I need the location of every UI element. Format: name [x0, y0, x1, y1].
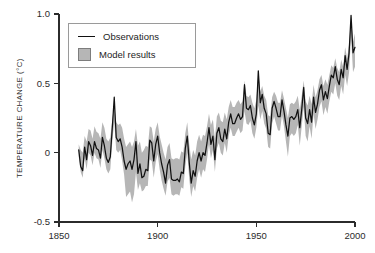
- y-tick-label: 1.0: [37, 8, 50, 19]
- y-tick-label: -0.5: [34, 216, 50, 227]
- x-tick-label: 1850: [48, 230, 69, 241]
- x-tick-label: 2000: [344, 230, 365, 241]
- legend-label-observations: Observations: [103, 31, 159, 42]
- x-axis-tick-labels: 1850190019502000: [48, 230, 365, 241]
- temperature-change-chart: -0.500.51.0 1850190019502000 TEMPERATURE…: [0, 0, 375, 253]
- legend-item-observations: Observations: [78, 31, 159, 42]
- y-axis-label-text: TEMPERATURE CHANGE (°C): [15, 58, 24, 178]
- y-tick-label: 0.5: [37, 78, 50, 89]
- y-axis-label: TEMPERATURE CHANGE (°C): [15, 58, 24, 178]
- y-axis-tick-labels: -0.500.51.0: [34, 8, 50, 227]
- legend-item-model-results: Model results: [78, 48, 156, 61]
- legend-label-model-results: Model results: [99, 49, 156, 60]
- legend-swatch-icon: [78, 48, 91, 61]
- chart-legend: Observations Model results: [68, 23, 196, 68]
- x-tick-label: 1950: [246, 230, 267, 241]
- y-tick-label: 0: [45, 147, 50, 158]
- legend-line-icon: [78, 36, 95, 37]
- x-tick-label: 1900: [147, 230, 168, 241]
